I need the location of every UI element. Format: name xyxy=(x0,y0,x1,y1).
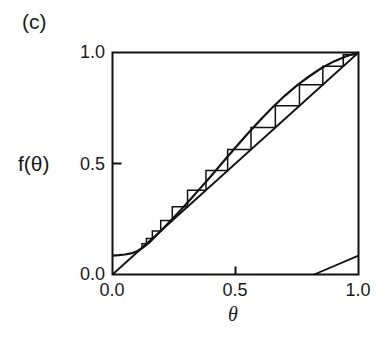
lower-branch-segment xyxy=(314,256,358,275)
plot-canvas xyxy=(0,0,379,340)
figure-panel-c: (c) f(θ) 1.0 0.5 0.0 0.0 0.5 1.0 θ xyxy=(0,0,379,340)
data-layer xyxy=(113,53,359,275)
return-map-curve xyxy=(113,53,359,256)
